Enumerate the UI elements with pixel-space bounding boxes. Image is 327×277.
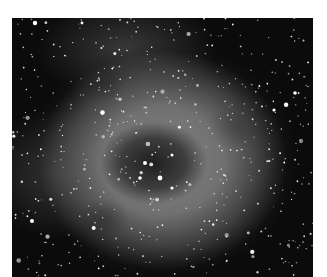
star-field [12, 18, 313, 277]
nebula-photo [12, 18, 313, 277]
